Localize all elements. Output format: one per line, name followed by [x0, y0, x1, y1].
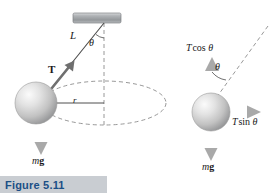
- t-cos-theta-symbol: θ: [208, 42, 213, 53]
- figure-caption-bar: Figure 5.11: [0, 176, 107, 193]
- t-cos-function-symbol: cos: [192, 42, 205, 53]
- t-sin-theta-symbol: θ: [253, 116, 258, 127]
- t-sin-theta-label: T sin θ: [232, 117, 258, 127]
- figure-caption-text: Figure 5.11: [0, 179, 65, 191]
- weight-gravity-symbol-right: g: [209, 161, 214, 172]
- radius-label: r: [73, 96, 77, 105]
- ceiling-bar: [73, 13, 121, 23]
- weight-label-right: mg: [202, 162, 214, 172]
- figure-container: L θ T r mg T cos θ θ T sin θ mg Figure 5…: [0, 0, 280, 193]
- t-cos-theta-label: T cos θ: [186, 43, 213, 53]
- angle-arc-theta-left: [96, 35, 104, 39]
- pendulum-bob-sphere: [15, 82, 57, 124]
- angle-theta-label-left: θ: [89, 38, 94, 48]
- weight-label-left: mg: [32, 156, 44, 166]
- weight-gravity-symbol-left: g: [39, 155, 44, 166]
- tension-label: T: [48, 64, 55, 75]
- t-sin-function-symbol: sin: [238, 116, 250, 127]
- string-length-label: L: [70, 30, 76, 41]
- angle-theta-label-right: θ: [215, 62, 220, 72]
